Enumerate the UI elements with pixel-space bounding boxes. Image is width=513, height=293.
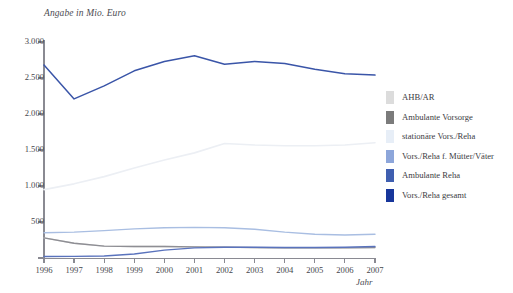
y-axis-label: 1.000: [10, 180, 44, 190]
series-line: [44, 143, 375, 190]
series-line: [44, 238, 375, 248]
x-axis-label: 1998: [96, 265, 113, 275]
x-axis-tick: [344, 258, 345, 263]
legend-item[interactable]: stationäre Vors./Reha: [386, 127, 513, 147]
chart-plot-area: [44, 42, 375, 258]
y-axis-label: 3.000: [10, 36, 44, 46]
x-axis-label: 2006: [336, 265, 353, 275]
y-axis-label: 1.500: [10, 144, 44, 154]
x-axis-label: 2007: [366, 265, 383, 275]
x-axis-tick: [254, 258, 255, 263]
legend-item-label: Vors./Reha f. Mütter/Väter: [402, 152, 494, 161]
legend-item-label: stationäre Vors./Reha: [402, 132, 475, 141]
legend-item[interactable]: Ambulante Vorsorge: [386, 108, 513, 128]
legend-item[interactable]: Vors./Reha f. Mütter/Väter: [386, 147, 513, 167]
legend-swatch-icon: [386, 150, 394, 163]
x-axis-label: 1999: [126, 265, 143, 275]
legend-swatch-icon: [386, 169, 394, 182]
legend-item-label: Vors./Reha gesamt: [402, 191, 466, 200]
x-axis-tick: [314, 258, 315, 263]
chart-legend: AHB/ARAmbulante Vorsorgestationäre Vors.…: [386, 88, 513, 205]
series-line: [44, 246, 375, 256]
x-axis-label: 2003: [246, 265, 263, 275]
legend-item[interactable]: Vors./Reha gesamt: [386, 186, 513, 206]
x-axis-tick: [194, 258, 195, 263]
x-axis-tick: [73, 258, 74, 263]
legend-swatch-icon: [386, 111, 394, 124]
x-axis-tick: [374, 258, 375, 263]
legend-item[interactable]: Ambulante Reha: [386, 166, 513, 186]
y-axis-ticks: 5001.0001.5002.0002.5003.000: [0, 0, 44, 293]
x-axis-label: 2002: [216, 265, 233, 275]
y-axis-label: 2.500: [10, 72, 44, 82]
legend-item[interactable]: AHB/AR: [386, 88, 513, 108]
legend-item-label: Ambulante Vorsorge: [402, 113, 473, 122]
y-axis-label: 2.000: [10, 108, 44, 118]
series-line: [44, 227, 375, 235]
x-axis-tick: [104, 258, 105, 263]
x-axis-tick: [284, 258, 285, 263]
x-axis-label: 1997: [65, 265, 82, 275]
x-axis-label: 2005: [306, 265, 323, 275]
y-axis-tick: [38, 257, 43, 258]
legend-swatch-icon: [386, 189, 394, 202]
x-axis-tick: [134, 258, 135, 263]
legend-item-label: AHB/AR: [402, 93, 434, 102]
chart-page: Angabe in Mio. Euro 5001.0001.5002.0002.…: [0, 0, 513, 293]
x-axis-tick: [224, 258, 225, 263]
x-axis-label: 1996: [35, 265, 52, 275]
x-axis-label: 2004: [276, 265, 293, 275]
legend-swatch-icon: [386, 91, 394, 104]
x-axis-tick: [164, 258, 165, 263]
x-axis-label: 2000: [156, 265, 173, 275]
x-axis-label: 2001: [186, 265, 203, 275]
series-line: [44, 56, 375, 99]
x-axis-title: Jahr: [356, 277, 373, 287]
legend-item-label: Ambulante Reha: [402, 171, 460, 180]
x-axis-tick: [43, 258, 44, 263]
y-axis-label: 500: [10, 216, 44, 226]
chart-subtitle: Angabe in Mio. Euro: [44, 8, 126, 18]
legend-swatch-icon: [386, 130, 394, 143]
